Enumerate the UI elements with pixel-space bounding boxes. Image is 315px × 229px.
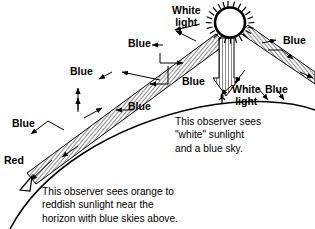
upper-observer-annotation: This observer sees "white" sunlight and … <box>175 115 261 155</box>
upper-obs-line3: and a blue sky. <box>175 142 261 155</box>
white-light-obs-line2: light <box>232 96 261 108</box>
label-blue-1: Blue <box>128 38 151 50</box>
label-blue-5: Blue <box>12 118 35 130</box>
upper-obs-line1: This observer sees <box>175 115 261 128</box>
beam-slant-to-horizon <box>27 34 226 184</box>
label-blue-2: Blue <box>70 66 93 78</box>
label-white-light-observer: White light <box>232 84 261 108</box>
label-blue-3: Blue <box>182 76 205 88</box>
white-light-top-line1: White <box>172 5 201 17</box>
lower-obs-line1: This observer sees orange to <box>42 185 178 198</box>
label-blue-4: Blue <box>128 101 151 113</box>
lower-obs-line2: reddish sunlight near the <box>42 198 178 211</box>
lower-observer-annotation: This observer sees orange to reddish sun… <box>42 185 178 225</box>
white-light-top-line2: light <box>172 17 201 29</box>
label-white-light-top: White light <box>172 5 201 29</box>
horizon-observer-figure <box>20 176 32 191</box>
label-red: Red <box>4 155 24 167</box>
white-light-obs-line1: White <box>232 84 261 96</box>
label-blue-6: Blue <box>283 35 306 47</box>
label-blue-7: Blue <box>265 84 288 96</box>
upper-obs-line2: "white" sunlight <box>175 128 261 141</box>
overhead-observer-figure <box>219 94 225 104</box>
lower-obs-line3: horizon with blue skies above. <box>42 212 178 225</box>
